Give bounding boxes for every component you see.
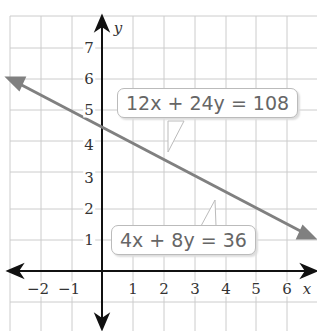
x-tick: 6 (281, 282, 293, 297)
x-tick: −2 (26, 282, 50, 297)
x-tick: 5 (250, 282, 262, 297)
y-tick: 3 (83, 171, 95, 186)
equation-callout-1: 12x + 24y = 108 (117, 88, 298, 118)
x-tick: 3 (189, 282, 201, 297)
x-tick: 4 (220, 282, 232, 297)
callout-pointer-2 (201, 200, 216, 226)
y-tick: 5 (83, 103, 95, 118)
equation-callout-2: 4x + 8y = 36 (111, 225, 256, 255)
y-axis-label: y (113, 21, 123, 36)
x-axis-label: x (302, 282, 312, 297)
y-tick: 6 (83, 72, 95, 87)
y-tick: 1 (83, 233, 95, 248)
y-tick: 2 (83, 202, 95, 217)
x-tick: −1 (57, 282, 81, 297)
y-tick: 4 (83, 138, 95, 153)
y-tick: 7 (83, 41, 95, 56)
callout-pointer-1 (168, 121, 184, 152)
x-tick: 2 (158, 282, 170, 297)
x-tick: 1 (127, 282, 139, 297)
